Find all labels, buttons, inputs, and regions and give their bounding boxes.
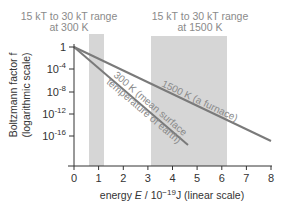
xtick-8: 8 [268,172,274,184]
xtick-2: 2 [120,172,126,184]
x-ticks [74,166,271,170]
xtick-6: 6 [219,172,225,184]
ytick-1e-12: 10-12 [42,106,66,120]
band-300k [89,34,104,166]
ytick-1e-4: 10-4 [47,61,67,75]
boltzmann-chart: 15 kT to 30 kT range at 300 K 15 kT to 3… [0,0,284,212]
xtick-1: 1 [96,172,102,184]
y-ticks [69,47,74,136]
xtick-4: 4 [169,172,175,184]
band300-annotation-line2: at 300 K [49,21,88,33]
ytick-1: 1 [60,41,66,53]
xtick-0: 0 [71,172,77,184]
ytick-1e-16: 10-16 [42,128,66,142]
band1500-annotation-line2: at 1500 K [178,21,223,33]
x-axis-title: energy E / 10−19J (linear scale) [100,188,244,201]
xtick-5: 5 [194,172,200,184]
y-axis-title-line1: Boltzmann factor f [7,53,19,138]
xtick-7: 7 [243,172,249,184]
xtick-3: 3 [145,172,151,184]
ytick-1e-8: 10-8 [47,84,67,98]
y-axis-title-line2: (logarithmic scale) [20,52,32,137]
